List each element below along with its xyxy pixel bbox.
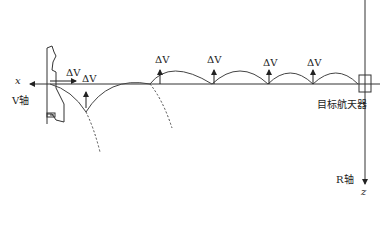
impulse-label-3: ΔV — [155, 55, 169, 65]
r-axis-label: R轴 — [336, 175, 354, 185]
v-axis-label: V轴 — [12, 96, 29, 106]
impulse-label-1: ΔV — [66, 68, 80, 78]
drift-paths — [86, 84, 172, 152]
impulse-label-2: ΔV — [82, 74, 96, 84]
impulse-label-6: ΔV — [307, 58, 321, 68]
impulse-label-4: ΔV — [207, 55, 221, 65]
v-axis-symbol: x — [15, 76, 21, 86]
chaser-spacecraft-icon — [47, 46, 64, 124]
r-axis-symbol: z — [361, 187, 366, 197]
target-label: 目标航天器 — [317, 100, 367, 110]
impulse-label-5: ΔV — [263, 58, 277, 68]
